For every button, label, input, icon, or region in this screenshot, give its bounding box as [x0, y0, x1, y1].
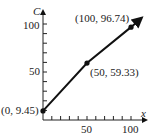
annotation-0: (0, 9.45)	[1, 104, 39, 117]
data-point	[40, 108, 45, 113]
annotation-1: (50, 59.33)	[90, 66, 139, 79]
x-tick-label-50: 50	[81, 123, 93, 135]
y-tick-label-50: 50	[29, 65, 41, 77]
x-ticks	[52, 116, 131, 120]
chart: C x 100 50 50 100 (0, 9.45) (50, 59.33) …	[0, 0, 150, 135]
y-tick-label-100: 100	[23, 19, 40, 31]
y-ticks	[43, 24, 47, 110]
data-point	[84, 60, 89, 65]
data-point	[128, 25, 133, 30]
y-axis-label: C	[33, 5, 41, 17]
x-axis-label: x	[140, 107, 146, 119]
annotation-2: (100, 96.74)	[75, 12, 129, 25]
x-tick-label-100: 100	[122, 123, 139, 135]
